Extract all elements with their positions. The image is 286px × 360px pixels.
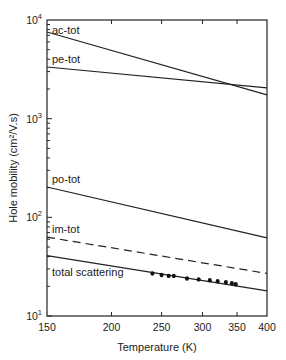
x-axis-label: Temperature (K) xyxy=(117,341,196,353)
y-tick-label: 104 xyxy=(26,12,42,26)
y-axis-label: Hole mobility (cm²/V.s) xyxy=(7,113,19,223)
data-point xyxy=(230,281,234,285)
y-tick-label: 103 xyxy=(26,111,42,125)
x-tick-label: 200 xyxy=(103,321,121,333)
data-point xyxy=(234,282,238,286)
data-point xyxy=(160,273,164,277)
series-label: po-tot xyxy=(52,173,80,185)
x-tick-label: 350 xyxy=(228,321,246,333)
x-tick-label: 150 xyxy=(38,321,56,333)
series-label: total scattering xyxy=(52,266,124,278)
data-point xyxy=(167,274,171,278)
data-point xyxy=(224,280,228,284)
y-tick-label: 101 xyxy=(26,308,42,322)
x-tick-label: 400 xyxy=(258,321,276,333)
series-label: im-tot xyxy=(52,223,80,235)
series-lines xyxy=(47,32,267,291)
y-axis-ticks: 101102103104 xyxy=(26,12,52,322)
data-point xyxy=(216,279,220,283)
mobility-chart: 101102103104 150200250300350400 ac-totpe… xyxy=(0,0,286,360)
data-point xyxy=(197,277,201,281)
data-point xyxy=(150,271,154,275)
line-po-tot xyxy=(47,187,267,238)
x-tick-label: 250 xyxy=(153,321,171,333)
y-tick-label: 102 xyxy=(26,209,42,223)
series-label: ac-tot xyxy=(52,24,80,36)
data-point xyxy=(185,276,189,280)
series-label: pe-tot xyxy=(52,53,80,65)
data-point xyxy=(208,278,212,282)
line-pe-tot xyxy=(47,67,267,88)
x-tick-label: 300 xyxy=(194,321,212,333)
data-point xyxy=(172,274,176,278)
